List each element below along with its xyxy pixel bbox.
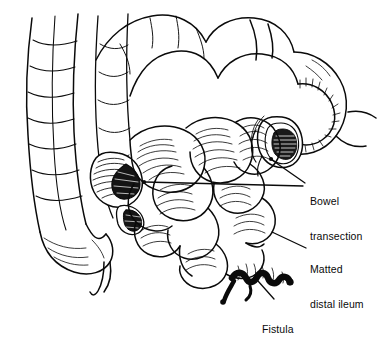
- fistula-tract: [220, 273, 293, 305]
- matted-mass-shading: [137, 125, 269, 270]
- parallel-limb-haustra: [98, 44, 130, 160]
- label-fistula-line1: Fistula: [262, 324, 294, 336]
- leader-dot-right: [269, 157, 273, 161]
- label-matted-distal-ileum: Matted distal ileum: [310, 241, 364, 333]
- label-bowel-transection-line1: Bowel: [310, 196, 362, 208]
- cecum-shading: [44, 238, 104, 265]
- leader-dot-left: [142, 180, 146, 184]
- label-fistula: Fistula: [262, 301, 294, 337]
- leader-matted-distal-ileum: [272, 232, 306, 248]
- label-matted-distal-ileum-line1: Matted: [310, 264, 364, 276]
- cecum: [40, 224, 113, 295]
- label-matted-distal-ileum-line2: distal ileum: [310, 299, 364, 311]
